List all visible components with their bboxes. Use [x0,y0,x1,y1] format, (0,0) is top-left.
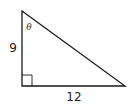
bottom-side-label: 12 [66,90,81,104]
triangle [22,11,125,86]
right-angle-marker [22,75,32,86]
left-side-label: 9 [9,41,17,55]
right-triangle-diagram: 9 12 θ [0,0,130,104]
angle-theta-label: θ [26,22,32,32]
